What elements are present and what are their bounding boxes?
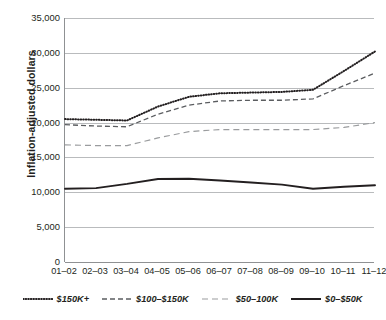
gridline: [65, 262, 374, 263]
legend-swatch: [291, 295, 321, 303]
y-tick-label: 30,000: [16, 48, 60, 57]
legend-item[interactable]: $100–$150K: [102, 294, 189, 304]
y-tick-label: 35,000: [16, 13, 60, 22]
y-tick-label: 5,000: [16, 222, 60, 231]
x-tick-label: 02–03: [82, 266, 108, 277]
series-line: [65, 123, 375, 146]
chart-legend: $150K+$100–$150K$50–100K$0–$50K: [0, 294, 385, 304]
legend-label: $50–100K: [236, 294, 278, 304]
x-tick-label: 06–07: [206, 266, 232, 277]
legend-item[interactable]: $150K+: [23, 294, 89, 304]
x-tick-label: 01–02: [51, 266, 77, 277]
x-tick-label: 09–10: [299, 266, 325, 277]
series-layer: [65, 18, 375, 262]
y-axis-tick-labels: 05,00010,00015,00020,00025,00030,00035,0…: [16, 0, 60, 262]
plot-area: [64, 18, 374, 262]
legend-item[interactable]: $50–100K: [202, 294, 278, 304]
legend-label: $0–$50K: [325, 294, 362, 304]
legend-swatch: [23, 295, 53, 303]
series-line: [65, 179, 375, 189]
x-tick-label: 04–05: [144, 266, 170, 277]
x-tick-label: 07–08: [237, 266, 263, 277]
x-tick-label: 08–09: [268, 266, 294, 277]
y-tick-label: 25,000: [16, 83, 60, 92]
y-tick-label: 15,000: [16, 153, 60, 162]
legend-label: $100–$150K: [136, 294, 189, 304]
x-tick-label: 03–04: [113, 266, 139, 277]
y-tick-label: 20,000: [16, 118, 60, 127]
legend-label: $150K+: [57, 294, 89, 304]
x-tick-label: 11–12: [362, 266, 386, 277]
x-axis-tick-labels: 01–0202–0303–0404–0505–0606–0707–0808–09…: [64, 266, 374, 282]
y-tick-label: 10,000: [16, 188, 60, 197]
series-line: [65, 51, 375, 120]
x-tick-label: 10–11: [331, 266, 356, 277]
legend-swatch: [202, 295, 232, 303]
legend-swatch: [102, 295, 132, 303]
x-tick-label: 05–06: [175, 266, 201, 277]
legend-item[interactable]: $0–$50K: [291, 294, 362, 304]
